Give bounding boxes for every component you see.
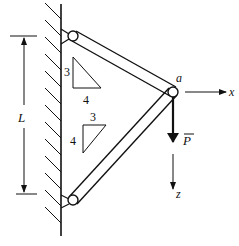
top-bar — [72, 31, 176, 96]
slope-triangle-top — [73, 57, 101, 88]
load-label: P — [182, 133, 191, 148]
top-triangle-run: 4 — [83, 93, 89, 107]
x-axis-label: x — [228, 85, 235, 99]
top-triangle-rise: 3 — [64, 65, 70, 79]
wall — [45, 3, 61, 236]
length-label: L — [17, 110, 25, 125]
bottom-pin-icon — [68, 195, 78, 205]
bottom-triangle-rise: 4 — [70, 134, 76, 148]
joint-a-pin-icon — [168, 87, 178, 97]
top-pin-icon — [68, 31, 78, 41]
truss-diagram: L a x z P 3 4 3 4 — [0, 0, 239, 246]
z-axis-label: z — [175, 187, 181, 201]
bottom-triangle-run: 3 — [90, 110, 96, 124]
joint-label: a — [176, 71, 182, 85]
slope-triangle-bottom — [83, 125, 106, 153]
